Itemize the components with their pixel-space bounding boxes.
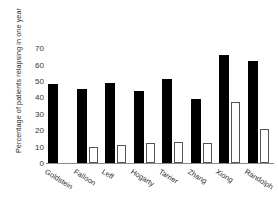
y-tick-label: 60 <box>14 60 44 69</box>
x-tick-label: Leff <box>100 167 115 181</box>
x-tick-label: Falloon <box>72 167 97 187</box>
bar-control <box>134 91 144 163</box>
plot-area <box>46 40 274 163</box>
y-tick-label: 70 <box>14 44 44 53</box>
y-tick-label: 50 <box>14 77 44 86</box>
bar-intervention <box>89 147 98 163</box>
x-tick-label: Zhang <box>186 167 209 186</box>
x-tick-label: Hogarty <box>129 167 156 188</box>
bar-control <box>191 99 201 163</box>
bar-control <box>248 61 258 163</box>
bar-intervention <box>260 129 269 163</box>
bar-control <box>219 55 229 163</box>
y-tick-label: 30 <box>14 109 44 118</box>
x-tick-label: Goldstein <box>43 167 74 191</box>
y-axis-ticks: 010203040506070 <box>10 0 44 218</box>
x-axis-line <box>46 163 274 164</box>
bar-intervention <box>203 143 212 163</box>
y-tick-label: 0 <box>14 159 44 168</box>
y-tick-label: 10 <box>14 142 44 151</box>
bar-control <box>105 83 115 163</box>
bar-intervention <box>117 145 126 163</box>
bar-chart: Percentage of patients relapsing in one … <box>0 0 278 218</box>
bar-control <box>162 79 172 163</box>
bar-intervention <box>231 102 240 163</box>
x-tick-label: Randolph <box>243 167 275 191</box>
bar-intervention <box>146 143 155 163</box>
bar-intervention <box>174 142 183 163</box>
x-tick-label: Tarrier <box>157 167 180 186</box>
y-tick-label: 40 <box>14 93 44 102</box>
bar-control <box>48 84 58 163</box>
x-tick-label: Xiong <box>214 167 235 185</box>
bar-control <box>77 89 87 163</box>
y-tick-label: 20 <box>14 126 44 135</box>
